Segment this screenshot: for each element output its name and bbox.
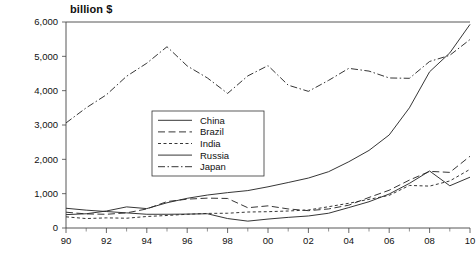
legend-label-russia: Russia [200,150,230,161]
y-axis-tick-label: 3,000 [34,119,58,130]
legend-label-india: India [200,138,221,149]
chart-container: billion $ 01,0002,0003,0004,0005,0006,00… [0,0,476,257]
y-axis-tick-label: 2,000 [34,154,58,165]
x-axis-tick-label: 04 [344,235,355,246]
x-axis-tick-label: 96 [182,235,193,246]
series-line-india [66,169,470,218]
legend-label-brazil: Brazil [200,126,224,137]
x-axis-tick-label: 10 [465,235,476,246]
y-axis-tick-marks [62,22,66,228]
series-line-russia [66,171,470,221]
line-chart-plot: 01,0002,0003,0004,0005,0006,000 90929496… [0,0,476,257]
x-axis-tick-label: 08 [424,235,435,246]
x-axis-tick-marks [66,228,470,233]
x-axis-tick-label: 94 [142,235,153,246]
legend-label-japan: Japan [200,161,226,172]
y-axis-tick-label: 6,000 [34,16,58,27]
series-line-china [66,24,470,214]
x-axis-tick-label: 02 [303,235,314,246]
y-axis-tick-label: 5,000 [34,51,58,62]
x-axis-tick-label: 98 [222,235,233,246]
chart-legend: ChinaBrazilIndiaRussiaJapan [152,111,264,176]
data-series-group [66,24,470,221]
y-axis-tick-label: 1,000 [34,188,58,199]
legend-label-china: China [200,115,226,126]
x-axis-tick-label: 00 [263,235,274,246]
y-axis-tick-label: 0 [53,222,58,233]
series-line-japan [66,40,470,123]
x-axis-tick-labels: 9092949698000204060810 [61,235,476,246]
x-axis-tick-label: 90 [61,235,72,246]
x-axis-tick-label: 92 [101,235,112,246]
x-axis-tick-label: 06 [384,235,395,246]
y-axis-tick-label: 4,000 [34,85,58,96]
y-axis-tick-labels: 01,0002,0003,0004,0005,0006,000 [34,16,58,233]
